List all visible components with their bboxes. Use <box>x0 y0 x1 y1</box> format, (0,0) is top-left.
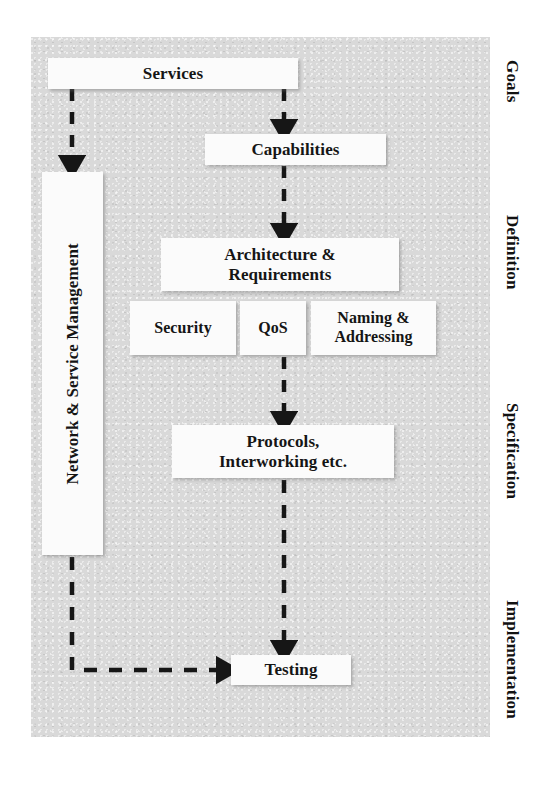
box-architecture-line-1: Architecture & <box>224 245 336 264</box>
box-protocols-text: Protocols, Interworking etc. <box>219 432 347 471</box>
box-capabilities[interactable]: Capabilities <box>205 134 386 165</box>
box-testing-label: Testing <box>265 660 318 680</box>
box-protocols-line-2: Interworking etc. <box>219 452 347 471</box>
box-testing[interactable]: Testing <box>231 655 351 685</box>
diagram-canvas: Services Capabilities Architecture & Req… <box>0 0 546 788</box>
box-network-and-service-management-label: Network & Service Management <box>63 243 83 484</box>
box-naming-and-addressing[interactable]: Naming & Addressing <box>311 301 436 355</box>
box-security-label: Security <box>154 319 212 338</box>
box-protocols-interworking[interactable]: Protocols, Interworking etc. <box>172 425 394 478</box>
stage-label-goals: Goals <box>502 60 522 103</box>
box-services[interactable]: Services <box>48 58 298 89</box>
box-qos[interactable]: QoS <box>240 301 306 355</box>
box-qos-label: QoS <box>258 319 288 338</box>
stage-label-implementation: Implementation <box>502 600 522 719</box>
box-capabilities-label: Capabilities <box>251 140 339 160</box>
box-protocols-line-1: Protocols, <box>247 432 320 451</box>
box-naming-line-1: Naming & <box>337 309 409 326</box>
box-naming-text: Naming & Addressing <box>334 309 412 346</box>
box-architecture-and-requirements[interactable]: Architecture & Requirements <box>161 238 399 291</box>
stage-label-specification: Specification <box>502 403 522 499</box>
box-security[interactable]: Security <box>130 301 236 355</box>
box-naming-line-2: Addressing <box>334 328 412 345</box>
box-services-label: Services <box>143 64 203 84</box>
box-architecture-line-2: Requirements <box>229 265 332 284</box>
stage-label-definition: Definition <box>502 215 522 290</box>
box-architecture-text: Architecture & Requirements <box>224 245 336 284</box>
box-network-and-service-management[interactable]: Network & Service Management <box>42 172 103 555</box>
